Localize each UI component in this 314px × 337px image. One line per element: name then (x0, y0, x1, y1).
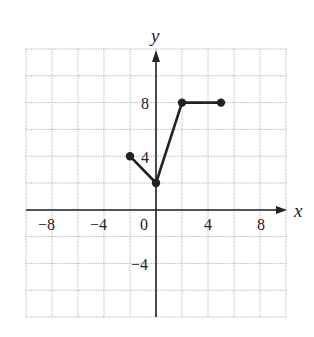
tick-y-4: 4 (141, 149, 149, 166)
tick-x-8: 8 (257, 216, 265, 233)
data-point (126, 152, 134, 160)
axes (26, 56, 280, 317)
data-point (217, 98, 225, 106)
y-axis-label: y (149, 25, 160, 46)
x-axis-arrow-icon (276, 206, 287, 214)
data-point (178, 98, 186, 106)
tick-origin: 0 (140, 216, 148, 233)
y-axis-arrow-icon (152, 50, 160, 62)
tick-x-m8: −8 (38, 216, 55, 233)
tick-x-4: 4 (204, 216, 212, 233)
tick-labels: −8 −4 0 4 8 8 4 −4 (38, 95, 265, 273)
tick-y-8: 8 (141, 95, 149, 112)
tick-y-m4: −4 (131, 256, 148, 273)
data-point (152, 179, 160, 187)
x-axis-label: x (293, 200, 303, 221)
graph-line (130, 103, 221, 183)
coordinate-plane: x y −8 −4 0 4 8 8 4 −4 (0, 0, 314, 337)
tick-x-m4: −4 (90, 216, 107, 233)
